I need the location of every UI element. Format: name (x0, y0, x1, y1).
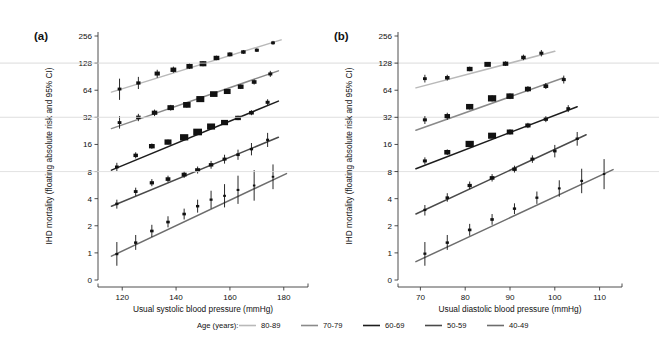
legend-label-60-69: 60-69 (385, 321, 404, 330)
data-marker (266, 101, 270, 104)
y-tick-label: 1 (87, 249, 92, 258)
panel-label: (b) (334, 30, 349, 42)
data-marker (553, 150, 557, 153)
data-marker (513, 207, 516, 209)
data-marker (210, 199, 213, 201)
data-marker (490, 176, 495, 180)
data-marker (224, 89, 231, 94)
legend-label-70-79: 70-79 (323, 321, 342, 330)
data-marker (214, 56, 220, 60)
data-marker (444, 150, 450, 155)
series-60-69 (111, 99, 278, 171)
data-marker (507, 130, 514, 135)
data-marker (562, 78, 566, 81)
data-marker (503, 62, 509, 66)
data-marker (466, 104, 473, 110)
data-marker (525, 123, 530, 127)
panel-a: (a)25612864321684210IHD mortality (float… (0, 30, 659, 314)
data-marker (525, 87, 531, 92)
legend-label-50-59: 50-59 (447, 321, 466, 330)
data-marker (266, 139, 269, 141)
data-marker (250, 148, 253, 150)
x-tick-label: 140 (169, 293, 183, 302)
data-marker (268, 72, 272, 75)
y-tick-label: 256 (378, 32, 392, 41)
data-marker (576, 138, 579, 140)
data-marker (558, 187, 561, 189)
y-tick-label: 1 (387, 249, 392, 258)
data-marker (200, 61, 207, 66)
y-tick-label: 0 (87, 276, 92, 285)
data-marker (241, 50, 246, 53)
y-tick-label: 8 (387, 168, 392, 177)
series-70-79 (416, 76, 566, 131)
y-tick-label: 64 (383, 86, 393, 95)
y-tick-label: 32 (83, 113, 93, 122)
data-marker (227, 52, 232, 56)
data-marker (210, 91, 218, 97)
data-marker (186, 64, 192, 69)
data-marker (535, 197, 538, 199)
fit-line (416, 170, 613, 262)
data-marker (196, 96, 204, 102)
data-marker (530, 158, 534, 161)
ihd-mortality-figure: (a)25612864321684210IHD mortality (float… (0, 0, 659, 351)
y-tick-label: 0 (387, 276, 392, 285)
x-tick-label: 110 (593, 293, 606, 302)
data-marker (171, 68, 177, 72)
x-tick-label: 160 (223, 293, 237, 302)
data-marker (223, 195, 226, 197)
fit-line (416, 78, 564, 130)
data-marker (166, 177, 171, 181)
fit-line (111, 174, 286, 257)
y-tick-label: 4 (387, 195, 392, 204)
data-marker (506, 93, 513, 99)
data-marker (150, 230, 154, 233)
x-tick-label: 80 (461, 293, 471, 302)
data-marker (580, 180, 583, 182)
data-marker (167, 105, 174, 110)
data-marker (468, 184, 472, 187)
y-tick-label: 128 (378, 59, 392, 68)
data-marker (249, 111, 254, 115)
legend-label-80-89: 80-89 (261, 321, 280, 330)
data-marker (488, 95, 496, 101)
data-marker (221, 120, 228, 125)
data-marker (115, 166, 119, 169)
data-marker (196, 205, 199, 207)
x-axis-title: Usual diastolic blood pressure (mmHg) (439, 304, 582, 314)
data-marker (136, 81, 140, 84)
data-marker (423, 209, 426, 211)
data-marker (193, 129, 202, 136)
data-marker (253, 185, 256, 187)
data-marker (180, 134, 188, 140)
legend: Age (years):80-8970-7960-6950-5940-49 (197, 321, 528, 330)
data-marker (423, 118, 427, 121)
y-axis-title: IHD mortality (floating absolute risk an… (344, 67, 354, 244)
data-marker (115, 253, 118, 255)
data-marker (237, 189, 240, 191)
x-tick-label: 120 (115, 293, 129, 302)
panel-b: (b)25612864321684210IHD mortality (float… (0, 30, 659, 314)
y-tick-label: 32 (383, 113, 393, 122)
data-marker (445, 76, 450, 79)
series-70-79 (111, 71, 278, 129)
data-marker (484, 62, 491, 67)
y-tick-label: 128 (78, 59, 92, 68)
series-60-69 (416, 105, 577, 169)
data-marker (543, 84, 548, 88)
data-marker (134, 241, 137, 243)
data-marker (238, 85, 244, 89)
series-50-59 (111, 133, 278, 209)
data-marker (445, 114, 451, 118)
data-marker (133, 154, 138, 157)
data-marker (236, 153, 240, 156)
y-tick-label: 2 (87, 222, 92, 231)
data-marker (521, 56, 526, 59)
data-marker (183, 102, 191, 108)
data-marker (155, 72, 160, 76)
data-marker (118, 121, 122, 124)
data-marker (149, 144, 155, 148)
data-marker (272, 176, 275, 178)
x-tick-label: 180 (277, 293, 291, 302)
